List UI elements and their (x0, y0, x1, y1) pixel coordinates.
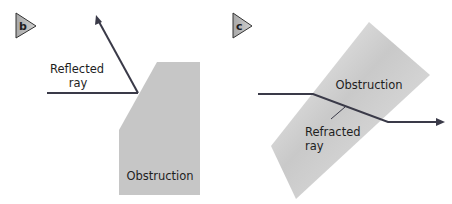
badge-letter: b (19, 20, 27, 33)
obstruction-label: Obstruction (335, 78, 402, 92)
obstruction-shape (271, 22, 430, 199)
refracted-label-line2: ray (305, 139, 324, 153)
refracted-label-line1: Refracted (305, 125, 361, 139)
panel-c: c Obstruction Refracted ray (233, 13, 445, 199)
panel-badge-b: b (16, 13, 36, 38)
reflected-label-line2: ray (69, 76, 88, 90)
reflected-ray (98, 20, 138, 93)
obstruction-label: Obstruction (126, 169, 193, 183)
diagram-canvas: b Reflected ray Obstruction c Obstructio… (0, 0, 452, 204)
badge-letter: c (236, 20, 243, 33)
reflected-label-line1: Reflected (50, 62, 104, 76)
panel-b: b Reflected ray Obstruction (16, 13, 200, 195)
arrowhead-icon (436, 118, 445, 126)
panel-badge-c: c (233, 13, 252, 38)
